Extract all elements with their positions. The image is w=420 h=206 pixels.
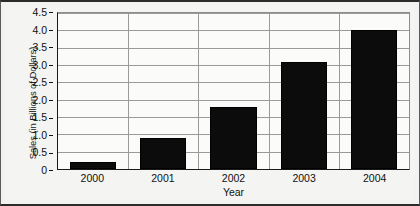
y-tick-mark	[49, 135, 53, 136]
y-tick-mark	[49, 30, 53, 31]
y-tick-mark	[49, 153, 53, 154]
chart-figure: Sales (in Billions of Dollars) 00.51.01.…	[0, 0, 420, 206]
x-tick-label: 2004	[339, 172, 410, 186]
y-tick-label: 4.5	[32, 6, 53, 18]
bar	[210, 107, 256, 169]
y-axis-tick-labels: 00.51.01.52.02.53.03.54.04.5	[19, 12, 53, 170]
bar	[351, 30, 397, 169]
x-tick-label: 2001	[128, 172, 199, 186]
y-tick-label: 3.5	[32, 41, 53, 53]
bar-cell	[58, 13, 128, 169]
y-tick-mark	[49, 65, 53, 66]
x-tick-label: 2002	[198, 172, 269, 186]
y-tick-label: 4.0	[32, 24, 53, 36]
x-axis-title: Year	[57, 186, 410, 198]
y-tick-mark	[49, 47, 53, 48]
bar-cell	[128, 13, 198, 169]
y-tick-mark	[49, 118, 53, 119]
bar	[70, 162, 116, 169]
y-tick-label: 2.5	[32, 76, 53, 88]
y-tick-label: 0	[41, 164, 53, 176]
x-tick-label: 2003	[269, 172, 340, 186]
plot-area	[57, 12, 410, 170]
y-tick-mark	[49, 12, 53, 13]
bar-cell	[269, 13, 339, 169]
chart-plate: Sales (in Billions of Dollars) 00.51.01.…	[5, 6, 415, 200]
bar	[140, 138, 186, 169]
bar-series	[58, 13, 409, 169]
y-tick-label: 0.5	[32, 146, 53, 158]
y-tick-mark	[49, 100, 53, 101]
bar-cell	[198, 13, 268, 169]
x-tick-label: 2000	[57, 172, 128, 186]
x-axis-tick-labels: 20002001200220032004	[57, 172, 410, 186]
y-tick-label: 1.0	[32, 129, 53, 141]
bar	[281, 62, 327, 169]
y-tick-mark	[49, 82, 53, 83]
y-tick-label: 1.5	[32, 111, 53, 123]
bar-cell	[339, 13, 409, 169]
y-tick-label: 2.0	[32, 94, 53, 106]
y-tick-label: 3.0	[32, 59, 53, 71]
y-tick-mark	[49, 170, 53, 171]
